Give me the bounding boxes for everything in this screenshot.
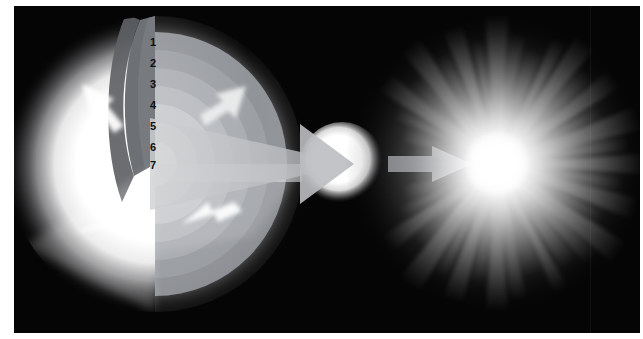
shell-label-7: 7 <box>150 160 156 171</box>
scan-seam <box>590 6 591 333</box>
diagram-canvas: 1 2 3 4 5 6 7 <box>14 6 640 333</box>
shell-label-4: 4 <box>150 100 156 111</box>
shell-label-2: 2 <box>150 58 156 69</box>
scene-svg <box>14 6 640 333</box>
shell-label-6: 6 <box>150 142 156 153</box>
shell-label-1: 1 <box>150 37 156 48</box>
supernova-core <box>463 130 531 198</box>
shell-label-3: 3 <box>150 79 156 90</box>
shell-label-5: 5 <box>150 121 156 132</box>
figure-root: 1 2 3 4 5 6 7 <box>0 0 643 339</box>
